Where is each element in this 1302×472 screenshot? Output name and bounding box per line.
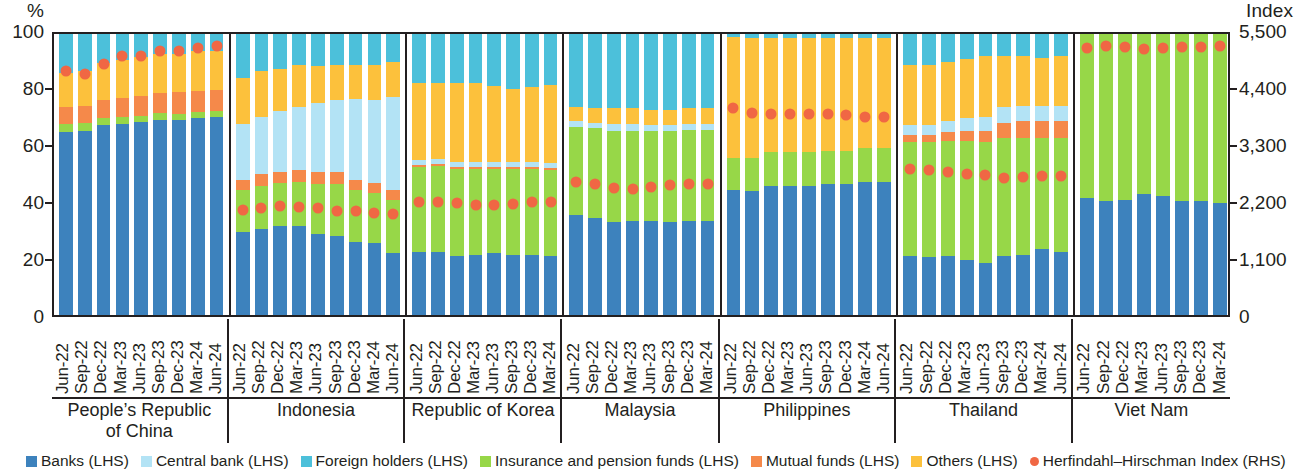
hhi-data-point[interactable] [173,45,184,56]
stacked-bar[interactable] [506,34,520,315]
hhi-data-point[interactable] [1119,42,1130,53]
stacked-bar[interactable] [1016,34,1030,315]
hhi-data-point[interactable] [545,197,556,208]
stacked-bar[interactable] [644,34,658,315]
stacked-bar[interactable] [330,34,344,315]
stacked-bar[interactable] [588,34,602,315]
stacked-bar[interactable] [745,34,759,315]
hhi-data-point[interactable] [117,50,128,61]
stacked-bar[interactable] [877,34,891,315]
legend-item[interactable]: Others (LHS) [911,452,1017,470]
stacked-bar[interactable] [191,34,205,315]
hhi-data-point[interactable] [155,45,166,56]
stacked-bar[interactable] [682,34,696,315]
hhi-data-point[interactable] [822,108,833,119]
hhi-data-point[interactable] [526,197,537,208]
hhi-data-point[interactable] [1082,43,1093,54]
hhi-data-point[interactable] [665,180,676,191]
stacked-bar[interactable] [469,34,483,315]
stacked-bar[interactable] [431,34,445,315]
stacked-bar[interactable] [311,34,325,315]
stacked-bar[interactable] [368,34,382,315]
hhi-data-point[interactable] [571,177,582,188]
stacked-bar[interactable] [236,34,250,315]
hhi-data-point[interactable] [803,108,814,119]
hhi-data-point[interactable] [646,181,657,192]
hhi-data-point[interactable] [608,182,619,193]
hhi-data-point[interactable] [961,169,972,180]
stacked-bar[interactable] [273,34,287,315]
hhi-data-point[interactable] [60,66,71,77]
hhi-data-point[interactable] [1176,41,1187,52]
stacked-bar[interactable] [1035,34,1049,315]
hhi-data-point[interactable] [275,201,286,212]
stacked-bar[interactable] [607,34,621,315]
hhi-data-point[interactable] [999,173,1010,184]
hhi-data-point[interactable] [294,202,305,213]
stacked-bar[interactable] [1054,34,1068,315]
stacked-bar[interactable] [821,34,835,315]
hhi-data-point[interactable] [841,109,852,120]
legend-item[interactable]: Central bank (LHS) [141,452,289,470]
stacked-bar[interactable] [134,34,148,315]
stacked-bar[interactable] [783,34,797,315]
hhi-data-point[interactable] [350,206,361,217]
stacked-bar[interactable] [569,34,583,315]
stacked-bar[interactable] [525,34,539,315]
hhi-data-point[interactable] [79,69,90,80]
hhi-data-point[interactable] [211,40,222,51]
stacked-bar[interactable] [78,34,92,315]
hhi-data-point[interactable] [136,50,147,61]
stacked-bar[interactable] [210,34,224,315]
stacked-bar[interactable] [172,34,186,315]
stacked-bar[interactable] [1118,34,1132,315]
stacked-bar[interactable] [941,34,955,315]
hhi-data-point[interactable] [1036,171,1047,182]
hhi-data-point[interactable] [1157,42,1168,53]
stacked-bar[interactable] [663,34,677,315]
hhi-data-point[interactable] [414,197,425,208]
hhi-data-point[interactable] [766,108,777,119]
hhi-data-point[interactable] [1018,172,1029,183]
hhi-data-point[interactable] [747,107,758,118]
hhi-data-point[interactable] [451,198,462,209]
hhi-data-point[interactable] [860,112,871,123]
stacked-bar[interactable] [997,34,1011,315]
hhi-data-point[interactable] [331,206,342,217]
stacked-bar[interactable] [840,34,854,315]
hhi-data-point[interactable] [256,203,267,214]
hhi-data-point[interactable] [1195,41,1206,52]
hhi-data-point[interactable] [980,170,991,181]
stacked-bar[interactable] [903,34,917,315]
hhi-data-point[interactable] [1138,43,1149,54]
hhi-data-point[interactable] [627,183,638,194]
stacked-bar[interactable] [764,34,778,315]
hhi-data-point[interactable] [98,58,109,69]
stacked-bar[interactable] [1099,34,1113,315]
hhi-data-point[interactable] [879,112,890,123]
stacked-bar[interactable] [97,34,111,315]
hhi-data-point[interactable] [1100,40,1111,51]
stacked-bar[interactable] [1137,34,1151,315]
stacked-bar[interactable] [922,34,936,315]
hhi-data-point[interactable] [1055,171,1066,182]
hhi-data-point[interactable] [489,200,500,211]
hhi-data-point[interactable] [942,166,953,177]
stacked-bar[interactable] [59,34,73,315]
hhi-data-point[interactable] [237,205,248,216]
legend-item[interactable]: Insurance and pension funds (LHS) [480,452,739,470]
stacked-bar[interactable] [349,34,363,315]
stacked-bar[interactable] [727,34,741,315]
legend-item[interactable]: Herfindahl–Hirschman Index (RHS) [1030,452,1286,470]
hhi-data-point[interactable] [728,102,739,113]
stacked-bar[interactable] [858,34,872,315]
stacked-bar[interactable] [1175,34,1189,315]
hhi-data-point[interactable] [508,199,519,210]
hhi-data-point[interactable] [683,179,694,190]
stacked-bar[interactable] [116,34,130,315]
stacked-bar[interactable] [544,34,558,315]
legend-item[interactable]: Foreign holders (LHS) [301,452,468,470]
hhi-data-point[interactable] [784,108,795,119]
hhi-data-point[interactable] [433,197,444,208]
hhi-data-point[interactable] [924,164,935,175]
